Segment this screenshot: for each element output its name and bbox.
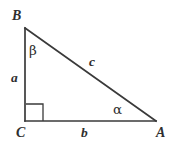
side-label-c: c (89, 55, 95, 69)
side-c-line (25, 28, 156, 121)
right-triangle-figure: B C A a b c β α (0, 0, 175, 147)
side-label-a: a (11, 71, 18, 85)
angle-label-alpha: α (113, 103, 122, 117)
vertex-label-c: C (16, 126, 25, 140)
right-angle-marker-icon (26, 104, 43, 121)
side-label-b: b (81, 126, 88, 140)
vertex-label-a: A (156, 126, 165, 140)
vertex-label-b: B (12, 9, 21, 23)
angle-label-beta: β (29, 44, 37, 58)
